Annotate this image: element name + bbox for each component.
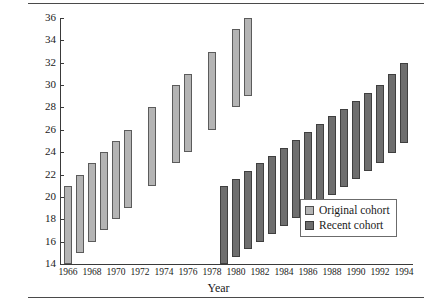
bar-recent-1980	[232, 179, 240, 257]
bar-original-1975	[172, 85, 180, 163]
y-axis-tick-label: 22	[26, 169, 56, 180]
bar-original-1980	[232, 29, 240, 107]
x-axis-title: Year	[0, 281, 437, 296]
bar-recent-1989	[340, 109, 348, 187]
y-axis-title: Age	[0, 110, 1, 130]
y-axis-tick-label: 34	[26, 34, 56, 45]
chart-figure: 141618202224262830323436 196619681970197…	[0, 0, 437, 307]
bar-recent-1990	[352, 101, 360, 179]
y-axis-tick-label: 32	[26, 57, 56, 68]
y-axis-tick-label: 28	[26, 101, 56, 112]
bar-recent-1993	[388, 74, 396, 153]
bar-original-1970	[112, 141, 120, 219]
legend-swatch-recent-icon	[305, 221, 314, 230]
bar-recent-1987	[316, 124, 324, 202]
y-axis-tick-label: 24	[26, 146, 56, 157]
bar-original-1976	[184, 74, 192, 152]
bar-recent-1982	[256, 163, 264, 241]
bar-recent-1992	[376, 85, 384, 163]
legend-swatch-original-icon	[305, 206, 314, 215]
bar-original-1968	[88, 163, 96, 241]
legend-item-original: Original cohort	[305, 203, 390, 218]
legend-label-recent: Recent cohort	[319, 219, 383, 232]
y-axis-tick-label: 18	[26, 213, 56, 224]
x-axis-tick-label: 1994	[384, 267, 424, 278]
bar-recent-1991	[364, 93, 372, 171]
bar-recent-1983	[268, 156, 276, 234]
y-axis-tick-label: 30	[26, 79, 56, 90]
y-axis-tick-label: 16	[26, 236, 56, 247]
bar-original-1966	[64, 186, 72, 264]
y-axis-tick-label: 36	[26, 12, 56, 23]
legend-item-recent: Recent cohort	[305, 218, 390, 233]
bar-recent-1985	[292, 140, 300, 218]
chart-legend: Original cohort Recent cohort	[300, 199, 397, 237]
bottom-divider-rule	[28, 297, 424, 298]
y-axis-tick	[60, 264, 64, 265]
bar-recent-1981	[244, 171, 252, 249]
y-axis-tick-label: 26	[26, 124, 56, 135]
bar-original-1969	[100, 152, 108, 230]
bar-original-1981	[244, 18, 252, 96]
top-divider-rule	[28, 3, 424, 4]
x-axis-line	[60, 264, 413, 265]
legend-label-original: Original cohort	[319, 204, 390, 217]
bar-original-1978	[208, 52, 216, 130]
bar-original-1967	[76, 175, 84, 253]
bar-recent-1994	[400, 63, 408, 144]
bar-original-1971	[124, 130, 132, 208]
bar-original-1973	[148, 107, 156, 185]
y-axis-tick-label: 20	[26, 191, 56, 202]
bar-recent-1979	[220, 186, 228, 264]
bar-recent-1984	[280, 148, 288, 226]
bar-recent-1988	[328, 116, 336, 194]
